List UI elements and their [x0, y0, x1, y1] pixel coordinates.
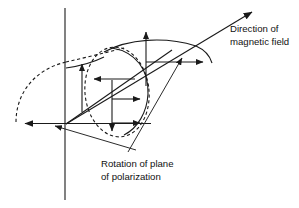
rotation-leader-left	[55, 126, 136, 150]
rotated-plane-arc-top	[104, 40, 196, 52]
faraday-rotation-figure: Direction of magnetic field Rotation of …	[0, 0, 299, 208]
rotation-label-line2: of polarization	[101, 171, 161, 182]
rotated-plane-arc-left	[66, 57, 104, 68]
magnetic-field-label-line1: Direction of	[230, 23, 279, 34]
magnetic-field-axis	[66, 12, 252, 124]
rotation-leader-upper	[128, 58, 182, 152]
diagram-canvas: Direction of magnetic field Rotation of …	[0, 0, 299, 208]
polarization-ellipse-solid-side	[112, 48, 148, 135]
initial-plane-arc-extension	[66, 48, 124, 62]
magnetic-field-label-line2: magnetic field	[230, 36, 289, 47]
rotation-label-line1: Rotation of plane	[101, 158, 174, 169]
rotated-plane-arc-right	[196, 46, 212, 63]
initial-plane-arc	[16, 62, 66, 122]
